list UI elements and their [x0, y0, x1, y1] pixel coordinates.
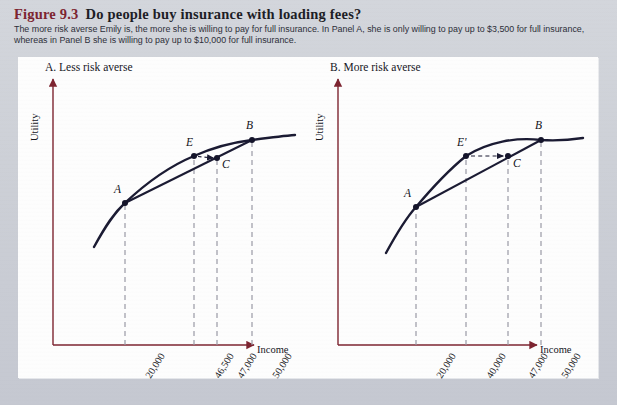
panel-b-label-b: B: [535, 119, 542, 131]
figure-title: Do people buy insurance with loading fee…: [86, 6, 362, 22]
panel-b-point-c: [505, 153, 511, 159]
panel-a-plot-area: [18, 57, 308, 378]
panel-a-label-e: E: [186, 136, 193, 148]
panel-b-point-e-prime: [463, 153, 469, 159]
figure-description: The more risk averse Emily is, the more …: [14, 24, 602, 46]
figure-page: Figure 9.3Do people buy insurance with l…: [0, 0, 617, 405]
figure-caption-block: Figure 9.3Do people buy insurance with l…: [14, 6, 606, 46]
panel-b-plot-area: [308, 57, 598, 378]
figure-number: Figure 9.3: [14, 6, 79, 22]
panel-a-label-c: C: [222, 158, 230, 170]
panel-a-label-a: A: [114, 183, 121, 195]
panel-a-label-b: B: [246, 119, 253, 131]
panel-a: A. Less risk averse Utility Income: [18, 57, 308, 378]
panel-a-arrow-e-to-c: [198, 157, 213, 159]
figure-title-line: Figure 9.3Do people buy insurance with l…: [14, 6, 606, 23]
panel-a-point-c: [214, 155, 220, 161]
panel-a-point-e: [191, 153, 197, 159]
panel-b-label-c: C: [513, 157, 521, 169]
panel-a-point-a: [122, 200, 128, 206]
figure-plot-card: A. Less risk averse Utility Income: [18, 57, 598, 378]
panel-b-label-a: A: [404, 187, 411, 199]
panel-a-expected-utility-chord: [125, 140, 252, 203]
panel-b: B. More risk averse Utility Income: [308, 57, 598, 378]
panel-a-point-b: [249, 137, 255, 143]
panel-b-label-e-prime: E': [457, 136, 466, 148]
panel-b-point-b: [538, 137, 544, 143]
panel-b-point-a: [413, 204, 419, 210]
